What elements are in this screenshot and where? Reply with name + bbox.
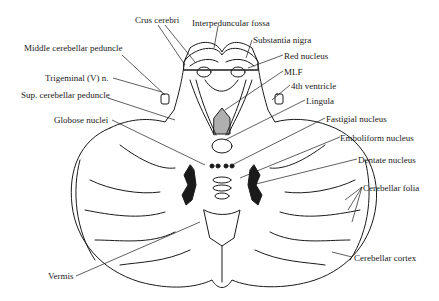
label-fastigial-nucleus: Fastigial nucleus	[326, 114, 387, 124]
label-red-nucleus: Red nucleus	[284, 51, 328, 61]
label-trigeminal-nerve: Trigeminal (V) n.	[45, 73, 108, 83]
label-middle-cerebellar-peduncle: Middle cerebellar peduncle	[24, 43, 122, 53]
red-nucleus-right	[231, 67, 245, 77]
dentate-right	[248, 165, 262, 205]
label-globose-nuclei: Globose nuclei	[54, 115, 108, 125]
label-substantia-nigra: Substantia nigra	[253, 35, 311, 45]
lingula	[212, 139, 232, 153]
label-lingula: Lingula	[306, 96, 334, 106]
label-cerebellar-folia: Cerebellar folia	[363, 183, 419, 193]
midbrain-top	[184, 48, 258, 70]
cerebellum-diagram: Crus cerebri Interpeduncular fossa Subst…	[0, 0, 439, 301]
label-fourth-ventricle: 4th ventricle	[291, 81, 336, 91]
dentate-left	[182, 165, 196, 205]
label-vermis: Vermis	[48, 271, 74, 281]
label-emboliform-nucleus: Emboliform nucleus	[340, 133, 414, 143]
label-crus-cerebri: Crus cerebri	[135, 15, 179, 25]
label-sup-cerebellar-peduncle: Sup. cerebellar peduncle	[21, 90, 110, 100]
label-interpeduncular-fossa: Interpeduncular fossa	[192, 18, 270, 28]
label-mlf: MLF	[284, 67, 303, 77]
label-cerebellar-cortex: Cerebellar cortex	[354, 253, 416, 263]
fourth-ventricle	[214, 108, 230, 134]
red-nucleus-left	[197, 67, 211, 77]
label-dentate-nucleus: Dentate nucleus	[358, 155, 416, 165]
